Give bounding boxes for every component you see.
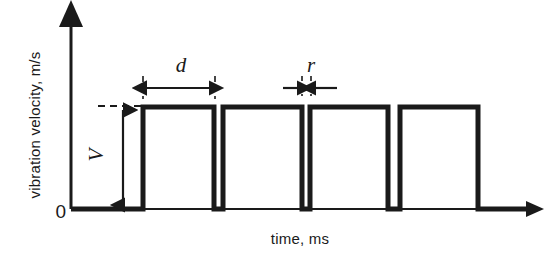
figure-background: [0, 0, 555, 259]
pulse-train-diagram: V d r 0 vibration velocity, m/s time, ms: [0, 0, 555, 259]
x-axis-label: time, ms: [271, 230, 329, 247]
interval-symbol-label: r: [307, 53, 316, 77]
figure-container: V d r 0 vibration velocity, m/s time, ms: [0, 0, 555, 259]
amplitude-symbol-label: V: [84, 146, 108, 161]
duration-symbol-label: d: [176, 53, 187, 77]
y-axis-label: vibration velocity, m/s: [26, 52, 43, 199]
origin-tick-label: 0: [55, 201, 66, 222]
